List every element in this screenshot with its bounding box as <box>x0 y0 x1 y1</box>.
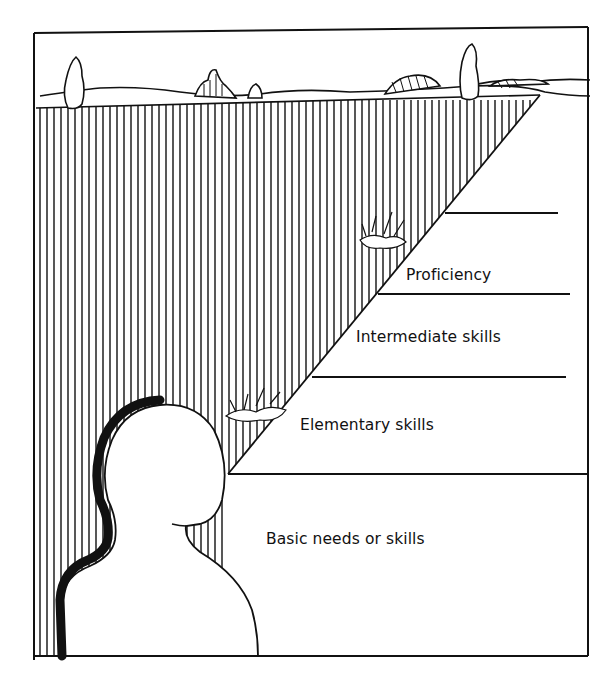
landscape <box>36 44 590 109</box>
illustration <box>0 0 615 679</box>
level-label-elementary: Elementary skills <box>300 416 434 434</box>
shrubs <box>226 212 406 421</box>
level-label-basic: Basic needs or skills <box>266 530 425 548</box>
level-label-intermediate: Intermediate skills <box>356 328 501 346</box>
level-label-proficiency: Proficiency <box>406 266 491 284</box>
